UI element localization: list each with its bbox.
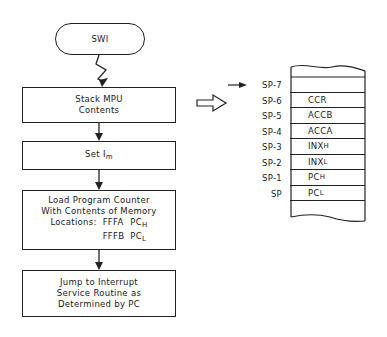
arrow-down-icon bbox=[95, 133, 103, 141]
stack-row bbox=[290, 77, 365, 93]
vector-locations: Locations: FFFA PCH FFFB PCL bbox=[50, 217, 147, 245]
stack-row: CCR bbox=[290, 93, 365, 109]
stack-address: SP-6 bbox=[242, 96, 282, 106]
stack-row: INXH bbox=[290, 139, 365, 155]
stack-row: ACCB bbox=[290, 108, 365, 124]
stack-address: SP-7 bbox=[242, 80, 282, 90]
hollow-arrow-icon bbox=[197, 95, 226, 111]
step-text: Determined by PC bbox=[58, 299, 140, 310]
start-label: SWI bbox=[91, 34, 108, 45]
step-jump-isr: Jump to Interrupt Service Routine as Det… bbox=[22, 270, 176, 317]
stack-address: SP-2 bbox=[242, 158, 282, 168]
stack-address: SP-5 bbox=[242, 111, 282, 121]
stack-row: ACCA bbox=[290, 124, 365, 140]
stack-row: PCH bbox=[290, 170, 365, 186]
stack-address: SP-3 bbox=[242, 142, 282, 152]
step-text: Jump to Interrupt bbox=[60, 277, 138, 288]
step-text: Stack MPU bbox=[75, 94, 123, 105]
lightning-connector bbox=[96, 55, 106, 81]
stack-address: SP-1 bbox=[242, 173, 282, 183]
stack-address: SP-4 bbox=[242, 127, 282, 137]
step-text: Load Program Counter bbox=[48, 195, 150, 206]
stack-address: SP bbox=[242, 189, 282, 199]
step-text: Contents bbox=[79, 105, 120, 116]
step-set-im: Set Im bbox=[22, 141, 176, 170]
arrow-down-icon bbox=[95, 182, 103, 190]
stack-row bbox=[290, 201, 365, 217]
step-stack-mpu: Stack MPU Contents bbox=[22, 87, 176, 123]
step-load-pc: Load Program Counter With Contents of Me… bbox=[22, 190, 176, 250]
stack-row: INXL bbox=[290, 155, 365, 171]
step-text: Service Routine as bbox=[57, 288, 141, 299]
step-text: Set Im bbox=[85, 149, 113, 163]
arrow-down-icon bbox=[95, 262, 103, 270]
stack-top-edge bbox=[291, 65, 365, 71]
step-text: With Contents of Memory bbox=[41, 206, 156, 217]
start-terminal: SWI bbox=[55, 23, 145, 55]
stack-row: PCL bbox=[290, 186, 365, 202]
